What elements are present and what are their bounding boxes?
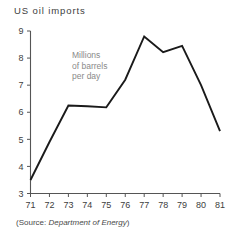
x-tick-label: 74 [82, 200, 92, 210]
annotation-line-2: of barrels [72, 61, 107, 72]
data-series-line [31, 36, 221, 180]
x-tick-label: 72 [44, 200, 54, 210]
chart-figure: US oil imports 3456789 71727374757677787… [0, 0, 244, 240]
x-tick-label: 71 [25, 200, 35, 210]
x-tick-label: 77 [139, 200, 149, 210]
y-tick-label: 4 [18, 162, 23, 172]
x-axis-ticks: 7172737475767778798081 [25, 194, 225, 210]
annotation-line-3: per day [72, 71, 107, 82]
line-chart-plot: 3456789 7172737475767778798081 [0, 0, 244, 240]
source-prefix: (Source: [16, 218, 48, 227]
chart-axes [31, 31, 221, 194]
y-axis-ticks: 3456789 [18, 26, 30, 199]
source-note: (Source: Department of Energy) [16, 218, 129, 227]
x-tick-label: 75 [101, 200, 111, 210]
x-tick-label: 79 [177, 200, 187, 210]
y-tick-label: 9 [18, 26, 23, 36]
data-series-group [31, 36, 221, 180]
y-tick-label: 7 [18, 80, 23, 90]
x-tick-label: 76 [120, 200, 130, 210]
axis-lines [31, 31, 221, 194]
source-suffix: ) [127, 218, 130, 227]
y-tick-label: 8 [18, 53, 23, 63]
annotation-line-1: Millions [72, 50, 107, 61]
x-tick-label: 78 [158, 200, 168, 210]
y-tick-label: 5 [18, 135, 23, 145]
y-tick-label: 6 [18, 107, 23, 117]
x-tick-label: 73 [63, 200, 73, 210]
chart-annotation: Millions of barrels per day [72, 50, 107, 82]
x-tick-label: 80 [196, 200, 206, 210]
source-organization: Department of Energy [48, 218, 126, 227]
y-tick-label: 3 [18, 189, 23, 199]
x-tick-label: 81 [215, 200, 225, 210]
